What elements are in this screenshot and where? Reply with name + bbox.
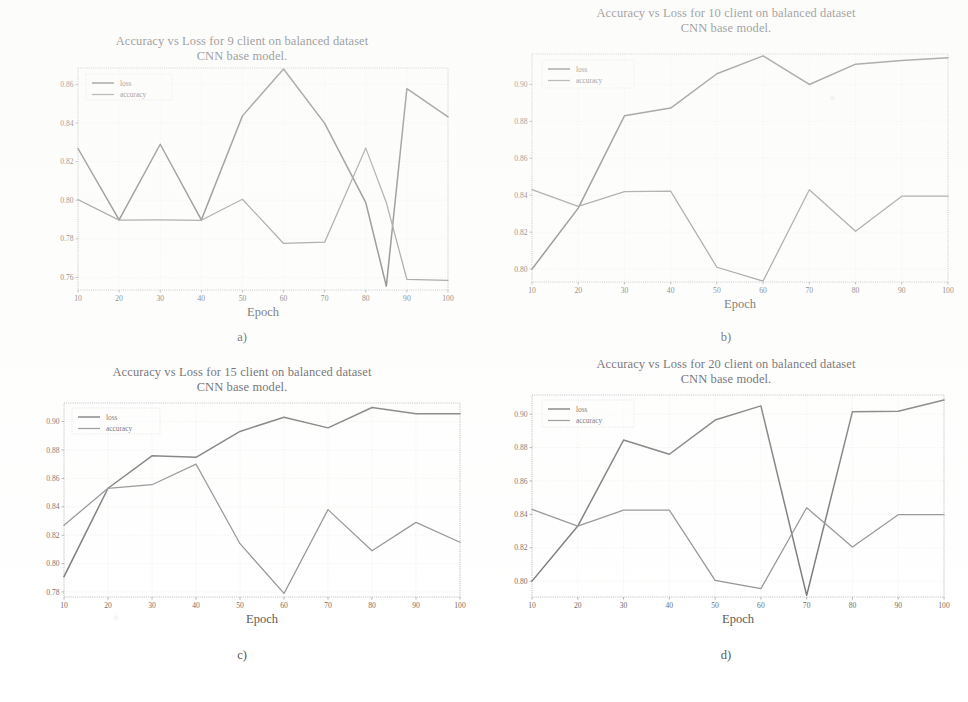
svg-text:20: 20 (574, 601, 582, 610)
svg-text:90: 90 (894, 601, 902, 610)
svg-text:0.86: 0.86 (514, 477, 527, 486)
svg-text:10: 10 (60, 601, 68, 610)
svg-text:60: 60 (757, 601, 765, 610)
svg-text:100: 100 (938, 601, 950, 610)
svg-text:0.90: 0.90 (514, 410, 527, 419)
svg-text:10: 10 (528, 601, 536, 610)
chart-b-svg: 0.800.820.840.860.880.901020304050607080… (492, 48, 956, 326)
svg-text:90: 90 (403, 294, 411, 303)
svg-text:50: 50 (236, 601, 244, 610)
svg-text:Epoch: Epoch (247, 305, 280, 319)
chart-a-title-block: Accuracy vs Loss for 9 client on balance… (0, 34, 484, 65)
svg-text:50: 50 (711, 601, 719, 610)
svg-text:30: 30 (148, 601, 156, 610)
chart-c-title-line1: Accuracy vs Loss for 15 client on balanc… (112, 365, 371, 379)
svg-text:30: 30 (620, 601, 628, 610)
chart-c-title-line2: CNN base model. (0, 380, 484, 395)
chart-b-title-block: Accuracy vs Loss for 10 client on balanc… (484, 6, 968, 37)
svg-text:0.76: 0.76 (60, 273, 73, 282)
chart-c-title-block: Accuracy vs Loss for 15 client on balanc… (0, 365, 484, 396)
svg-text:80: 80 (362, 294, 370, 303)
svg-text:30: 30 (156, 294, 164, 303)
chart-panel-c: Accuracy vs Loss for 15 client on balanc… (0, 351, 484, 702)
svg-text:accuracy: accuracy (120, 90, 147, 99)
svg-text:0.80: 0.80 (46, 559, 59, 568)
svg-text:Value: Value (26, 397, 41, 400)
svg-text:90: 90 (898, 286, 906, 295)
svg-text:0.88: 0.88 (46, 446, 59, 455)
svg-text:accuracy: accuracy (106, 424, 133, 433)
svg-text:0.86: 0.86 (514, 154, 527, 163)
svg-text:40: 40 (198, 294, 206, 303)
chart-d-title-block: Accuracy vs Loss for 20 client on balanc… (484, 357, 968, 388)
svg-text:loss: loss (576, 405, 588, 414)
svg-text:0.84: 0.84 (60, 119, 73, 128)
svg-text:40: 40 (192, 601, 200, 610)
svg-text:50: 50 (713, 286, 721, 295)
svg-text:Epoch: Epoch (724, 297, 757, 311)
chart-b-caption: b) (484, 330, 968, 345)
svg-text:80: 80 (849, 601, 857, 610)
svg-text:60: 60 (759, 286, 767, 295)
chart-d-title-line1: Accuracy vs Loss for 20 client on balanc… (596, 357, 855, 371)
svg-text:70: 70 (806, 286, 814, 295)
svg-text:loss: loss (120, 79, 132, 88)
svg-text:0.88: 0.88 (514, 443, 527, 452)
chart-a-caption: a) (0, 330, 484, 345)
svg-text:30: 30 (621, 286, 629, 295)
svg-text:0.82: 0.82 (60, 157, 73, 166)
svg-text:40: 40 (667, 286, 675, 295)
svg-text:0.78: 0.78 (46, 588, 59, 597)
svg-text:70: 70 (803, 601, 811, 610)
svg-text:0.84: 0.84 (46, 502, 59, 511)
svg-text:Value: Value (44, 62, 59, 65)
chart-panel-a: Accuracy vs Loss for 9 client on balance… (0, 0, 484, 351)
chart-panel-d: Accuracy vs Loss for 20 client on balanc… (484, 351, 968, 702)
svg-text:20: 20 (574, 286, 582, 295)
figure-grid: Accuracy vs Loss for 9 client on balance… (0, 0, 968, 702)
svg-text:Value: Value (492, 48, 507, 51)
svg-text:Value: Value (490, 389, 505, 392)
svg-text:20: 20 (115, 294, 123, 303)
svg-text:70: 70 (321, 294, 329, 303)
svg-text:0.90: 0.90 (514, 80, 527, 89)
chart-d-title-line2: CNN base model. (484, 372, 968, 387)
svg-text:0.80: 0.80 (514, 265, 527, 274)
svg-text:40: 40 (666, 601, 674, 610)
svg-text:0.84: 0.84 (514, 510, 527, 519)
svg-text:0.82: 0.82 (46, 531, 59, 540)
chart-b-title-line2: CNN base model. (484, 21, 968, 36)
chart-c-plot: 0.780.800.820.840.860.880.90102030405060… (26, 397, 466, 637)
chart-a-plot: 0.760.780.800.820.840.861020304050607080… (44, 62, 454, 330)
svg-text:0.80: 0.80 (514, 577, 527, 586)
svg-text:loss: loss (576, 65, 588, 74)
svg-text:0.90: 0.90 (46, 417, 59, 426)
svg-text:90: 90 (412, 601, 420, 610)
svg-text:100: 100 (442, 294, 454, 303)
chart-d-caption: d) (484, 648, 968, 663)
svg-text:loss: loss (106, 413, 118, 422)
chart-a-svg: 0.760.780.800.820.840.861020304050607080… (44, 62, 454, 330)
svg-text:10: 10 (74, 294, 82, 303)
chart-a-title-line1: Accuracy vs Loss for 9 client on balance… (116, 34, 369, 48)
svg-text:60: 60 (280, 294, 288, 303)
svg-text:60: 60 (280, 601, 288, 610)
svg-text:0.80: 0.80 (60, 196, 73, 205)
chart-b-title-line1: Accuracy vs Loss for 10 client on balanc… (596, 6, 855, 20)
svg-text:70: 70 (324, 601, 332, 610)
svg-text:0.88: 0.88 (514, 117, 527, 126)
chart-c-caption: c) (0, 648, 484, 663)
svg-text:accuracy: accuracy (576, 416, 603, 425)
chart-c-svg: 0.780.800.820.840.860.880.90102030405060… (26, 397, 466, 637)
svg-text:0.78: 0.78 (60, 234, 73, 243)
chart-panel-b: Accuracy vs Loss for 10 client on balanc… (484, 0, 968, 351)
svg-text:Epoch: Epoch (246, 612, 279, 626)
svg-text:100: 100 (454, 601, 466, 610)
svg-text:accuracy: accuracy (576, 76, 603, 85)
svg-text:100: 100 (942, 286, 954, 295)
svg-text:0.86: 0.86 (60, 80, 73, 89)
chart-d-plot: 0.800.820.840.860.880.901020304050607080… (490, 389, 952, 639)
svg-text:0.84: 0.84 (514, 191, 527, 200)
svg-text:50: 50 (239, 294, 247, 303)
svg-text:0.86: 0.86 (46, 474, 59, 483)
